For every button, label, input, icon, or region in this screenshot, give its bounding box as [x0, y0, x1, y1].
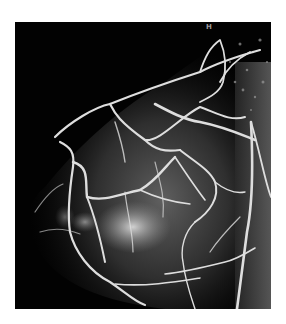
- orientation-marker: H: [206, 23, 212, 31]
- mri-image: H: [15, 22, 271, 309]
- vessel-rendering: [15, 22, 271, 309]
